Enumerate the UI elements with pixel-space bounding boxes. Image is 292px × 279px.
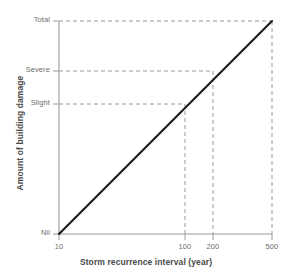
y-tick-label-total: Total <box>8 15 50 24</box>
data-line-building-damage <box>59 21 272 234</box>
x-tick-label-100: 100 <box>170 242 200 251</box>
x-axis-title: Storm recurrence interval (year) <box>0 257 292 267</box>
x-tick-label-200: 200 <box>198 242 228 251</box>
damage-vs-recurrence-chart: Total Severe Slight Nil 10 100 200 500 A… <box>0 0 292 279</box>
x-tick-label-10: 10 <box>44 242 74 251</box>
y-tick-label-nil: Nil <box>8 228 50 237</box>
x-tick-label-500: 500 <box>257 242 287 251</box>
y-axis-title: Amount of building damage <box>15 43 25 223</box>
chart-canvas <box>0 0 292 279</box>
